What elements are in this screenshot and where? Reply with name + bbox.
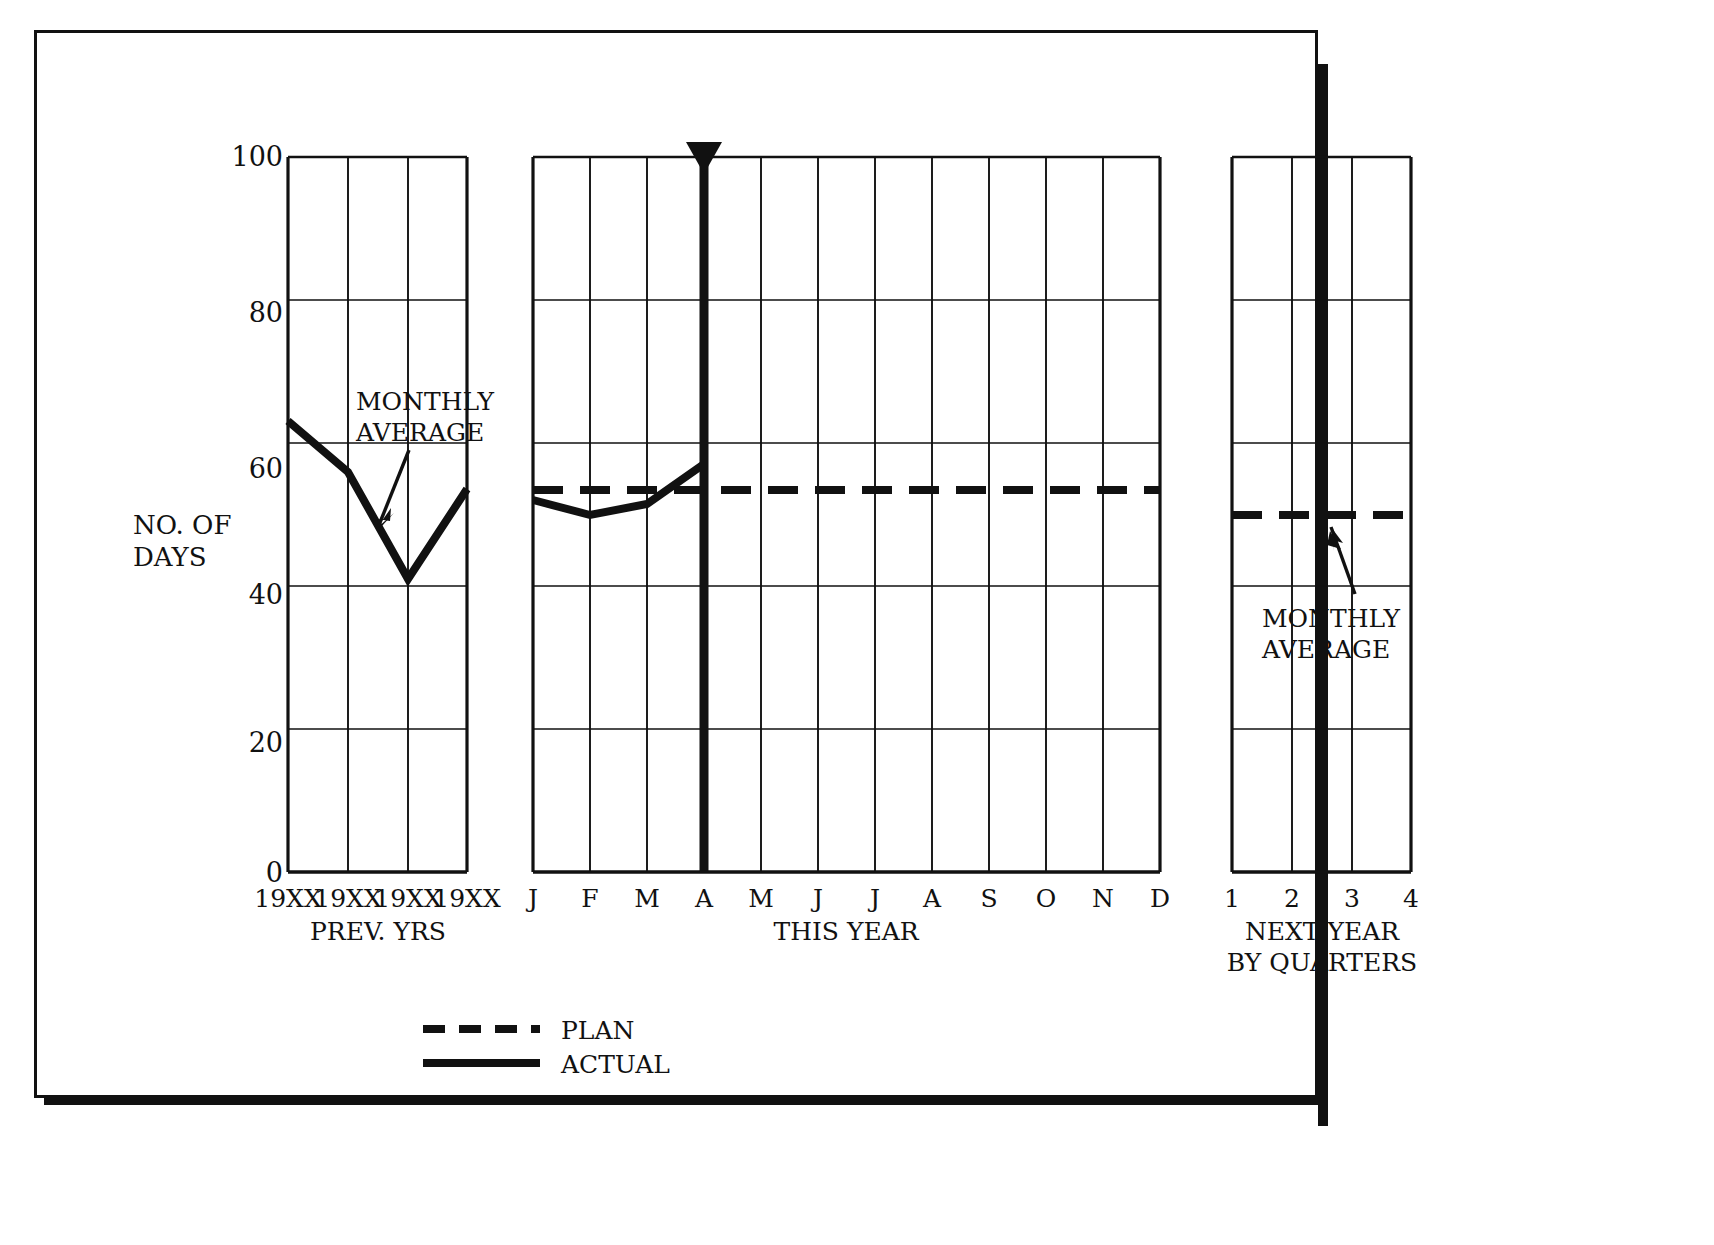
y-tick-20: 20 bbox=[249, 727, 283, 758]
y-tick-80: 80 bbox=[249, 297, 283, 328]
panel-label-prev-years: PREV. YRS bbox=[310, 917, 446, 946]
prev-years-x-tick-labels: 19XX 19XX 19XX 19XX bbox=[254, 884, 501, 913]
month-tick-jul: J bbox=[867, 884, 880, 913]
month-tick-feb: F bbox=[581, 884, 598, 913]
legend-item-actual: ACTUAL bbox=[423, 1050, 670, 1079]
panel-next-year: MONTHLY AVERAGE 1 2 3 4 NEXT YEAR BY QUA… bbox=[1224, 157, 1419, 977]
y-tick-100: 100 bbox=[231, 141, 283, 172]
y-axis-title: NO. OF DAYS bbox=[133, 510, 231, 572]
panel-label-next-year-line2: BY QUARTERS bbox=[1227, 948, 1418, 977]
y-axis-title-line1: NO. OF bbox=[133, 510, 231, 540]
y-axis-tick-labels: 100 80 60 40 20 0 bbox=[231, 141, 283, 888]
next-monthly-average-arrow-icon bbox=[1327, 527, 1355, 594]
month-tick-jan: J bbox=[525, 884, 538, 913]
month-tick-oct: O bbox=[1036, 884, 1057, 913]
y-axis-title-line2: DAYS bbox=[133, 542, 207, 572]
quarter-tick-1: 1 bbox=[1224, 884, 1240, 913]
legend-plan-label: PLAN bbox=[561, 1016, 634, 1045]
y-tick-40: 40 bbox=[249, 579, 283, 610]
legend: PLAN ACTUAL bbox=[423, 1016, 670, 1079]
next-monthly-average-label-line1: MONTHLY bbox=[1262, 604, 1400, 633]
panel-this-year: J F M A M J J A S O N D THIS YEAR bbox=[525, 142, 1170, 946]
prev-year-tick-0: 19XX bbox=[254, 884, 322, 913]
quarter-tick-3: 3 bbox=[1344, 884, 1360, 913]
legend-actual-label: ACTUAL bbox=[560, 1050, 670, 1079]
panel-prev-years: MONTHLY AVERAGE 19XX 19XX 19XX 19XX PREV… bbox=[254, 157, 501, 946]
next-monthly-average-label-line2: AVERAGE bbox=[1261, 635, 1390, 664]
month-tick-nov: N bbox=[1092, 884, 1114, 913]
month-tick-may: M bbox=[748, 884, 774, 913]
legend-item-plan: PLAN bbox=[423, 1016, 634, 1045]
prev-monthly-average-arrow-icon bbox=[377, 450, 409, 528]
month-tick-apr: A bbox=[694, 884, 714, 913]
panel-label-next-year-line1: NEXT YEAR bbox=[1245, 917, 1400, 946]
prev-monthly-average-label-line2: AVERAGE bbox=[355, 418, 484, 447]
month-tick-aug: A bbox=[922, 884, 942, 913]
panel-label-this-year: THIS YEAR bbox=[773, 917, 919, 946]
month-tick-jun: J bbox=[810, 884, 823, 913]
prev-year-tick-3: 19XX bbox=[433, 884, 501, 913]
prev-monthly-average-label-line1: MONTHLY bbox=[356, 387, 494, 416]
month-tick-mar: M bbox=[634, 884, 660, 913]
quarter-tick-2: 2 bbox=[1284, 884, 1300, 913]
prev-year-tick-1: 19XX bbox=[314, 884, 382, 913]
quarter-tick-4: 4 bbox=[1403, 884, 1419, 913]
this-year-x-tick-labels: J F M A M J J A S O N D bbox=[525, 884, 1170, 913]
prev-year-tick-2: 19XX bbox=[374, 884, 442, 913]
month-tick-dec: D bbox=[1150, 884, 1170, 913]
y-tick-60: 60 bbox=[249, 453, 283, 484]
month-tick-sep: S bbox=[980, 884, 997, 913]
next-year-x-tick-labels: 1 2 3 4 bbox=[1224, 884, 1419, 913]
chart-canvas: 100 80 60 40 20 0 NO. OF DAYS MONTHLY AV… bbox=[0, 0, 1714, 1245]
